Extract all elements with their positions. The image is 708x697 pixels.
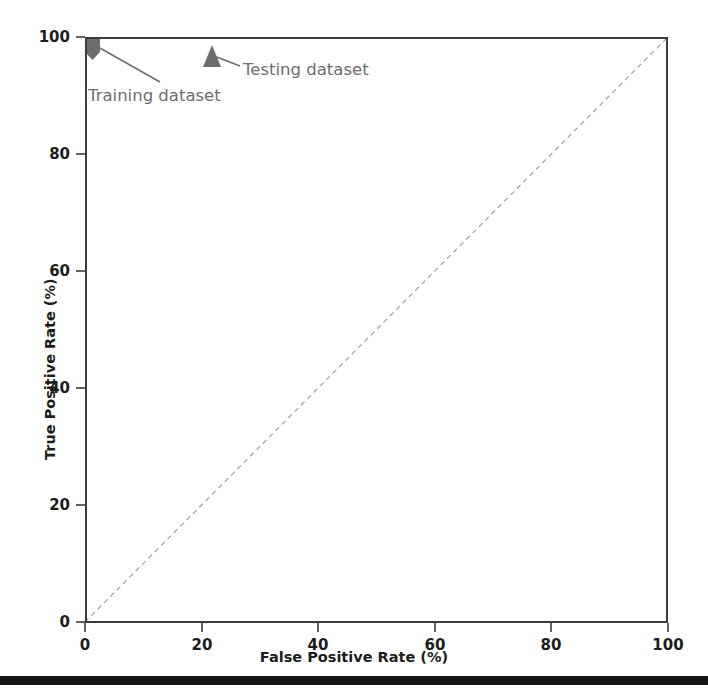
y-tick-label-60: 60	[30, 262, 70, 280]
plot-frame	[85, 37, 668, 623]
x-axis-title: False Positive Rate (%)	[0, 649, 708, 665]
y-tick-label-20: 20	[30, 496, 70, 514]
y-tick-marks	[76, 37, 85, 622]
annotation-testing-dataset: Testing dataset	[243, 60, 369, 79]
x-tick-marks	[85, 623, 668, 632]
page-edge-bar	[0, 676, 708, 685]
y-tick-label-0: 0	[30, 613, 70, 631]
roc-curve-figure: 100 80 60 40 20 0 0 20 40 60 80 100 Fals…	[0, 0, 708, 697]
y-tick-label-100: 100	[30, 28, 70, 46]
y-axis-title: True Positive Rate (%)	[42, 278, 58, 460]
y-tick-label-80: 80	[30, 145, 70, 163]
annotation-training-dataset: Training dataset	[88, 86, 221, 105]
